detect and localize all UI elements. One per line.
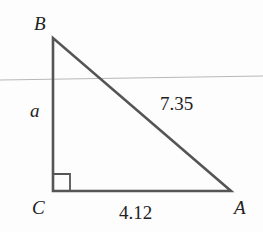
side-label-base: 4.12 (119, 203, 152, 222)
vertex-label-c: C (32, 198, 45, 217)
right-angle-marker (53, 174, 70, 191)
horizontal-rule-line (0, 76, 263, 80)
triangle-diagram: B a 7.35 C 4.12 A (0, 0, 263, 232)
vertex-label-b: B (34, 14, 46, 33)
side-label-a: a (30, 101, 40, 120)
triangle-outline (53, 38, 231, 191)
vertex-label-a: A (234, 198, 246, 217)
side-label-hypotenuse: 7.35 (160, 94, 193, 113)
